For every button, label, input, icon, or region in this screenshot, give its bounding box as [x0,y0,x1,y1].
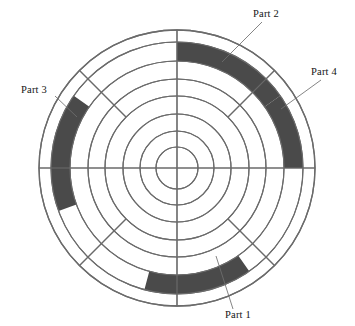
ring-diagram: Part 1Part 2Part 3Part 4 [0,0,355,326]
label-part-4: Part 4 [311,66,338,77]
label-part-1: Part 1 [225,309,251,320]
label-part-2: Part 2 [253,8,279,19]
highlighted-sectors-group [39,30,315,306]
leader-lines-group [55,22,321,309]
figure-root: Part 1Part 2Part 3Part 4 [0,0,355,326]
label-part-3: Part 3 [21,84,47,95]
leader-line-part-2 [222,22,262,62]
